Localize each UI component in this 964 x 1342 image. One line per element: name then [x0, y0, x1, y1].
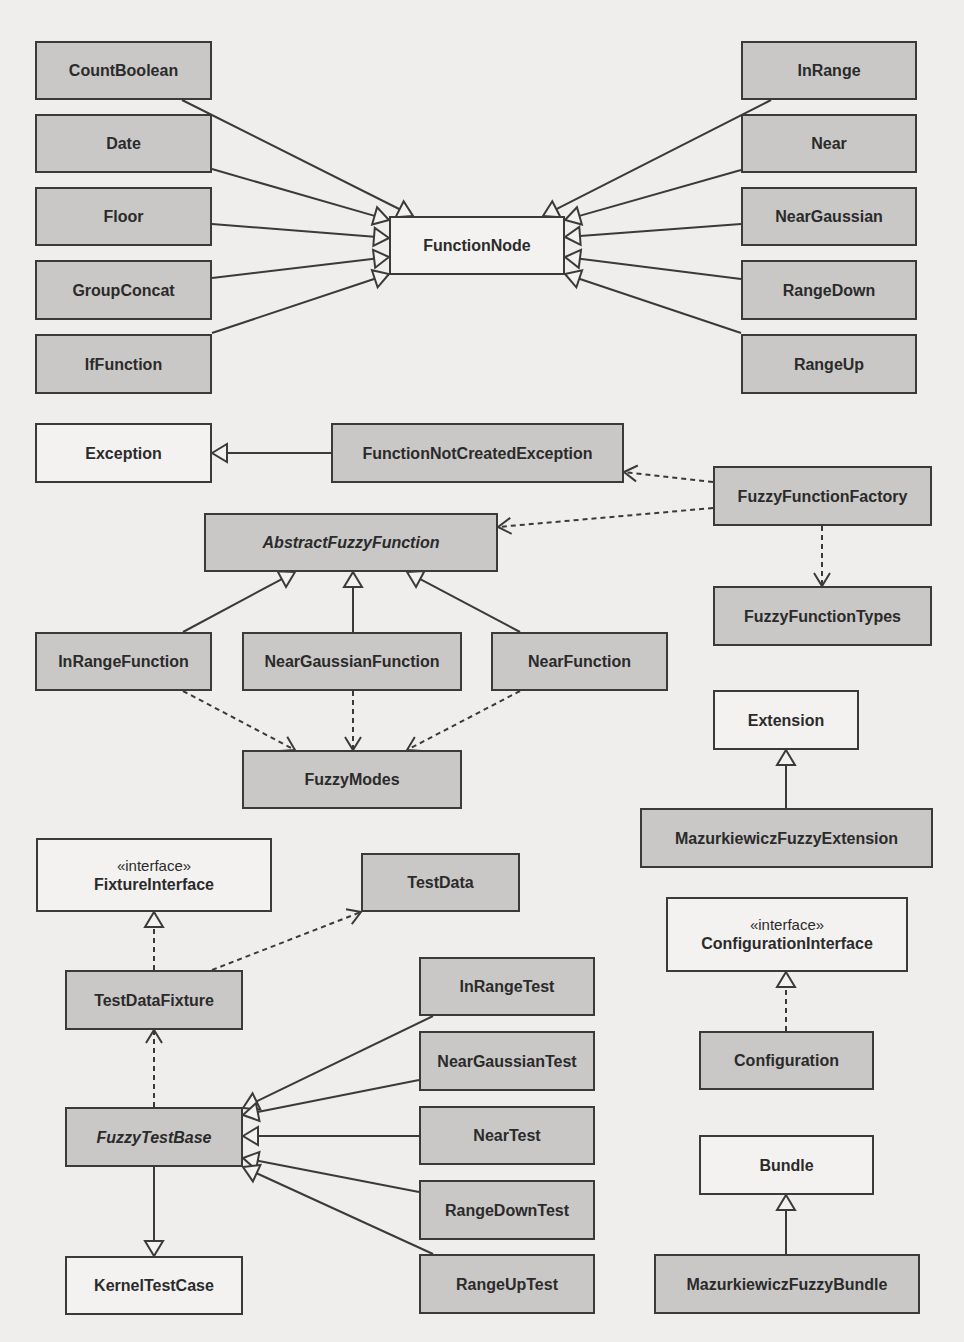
class-in-range[interactable]: InRange — [741, 41, 917, 100]
hollow-triangle-arrow-icon — [212, 444, 227, 462]
class-name: FunctionNotCreatedException — [362, 444, 592, 463]
class-date[interactable]: Date — [35, 114, 212, 173]
class-bundle[interactable]: Bundle — [699, 1135, 874, 1195]
class-function-node[interactable]: FunctionNode — [389, 216, 565, 275]
relation-dependency-line — [212, 912, 361, 970]
class-near-gaussian-test[interactable]: NearGaussianTest — [419, 1031, 595, 1091]
class-name: RangeDownTest — [445, 1201, 569, 1220]
class-name: Extension — [748, 711, 824, 730]
class-name: FunctionNode — [423, 236, 531, 255]
class-configuration-interface[interactable]: «interface» ConfigurationInterface — [666, 897, 908, 972]
relation-generalization-line — [258, 1080, 419, 1112]
class-near-gaussian-function[interactable]: NearGaussianFunction — [242, 632, 462, 691]
class-range-down-test[interactable]: RangeDownTest — [419, 1180, 595, 1240]
class-abstract-fuzzy-function[interactable]: AbstractFuzzyFunction — [204, 513, 498, 572]
class-name: FuzzyTestBase — [97, 1128, 212, 1147]
hollow-triangle-arrow-icon — [373, 228, 389, 246]
open-arrow-icon — [346, 909, 361, 924]
open-arrow-icon — [498, 518, 512, 534]
hollow-triangle-arrow-icon — [396, 201, 413, 217]
class-range-down[interactable]: RangeDown — [741, 260, 917, 320]
class-name: TestDataFixture — [94, 991, 214, 1010]
relation-generalization-line — [556, 100, 771, 209]
class-name: ConfigurationInterface — [701, 934, 873, 953]
hollow-triangle-arrow-icon — [145, 1241, 163, 1256]
class-name: RangeUp — [794, 355, 864, 374]
hollow-triangle-arrow-icon — [243, 1103, 259, 1121]
relation-generalization-line — [580, 259, 741, 279]
class-name: Near — [811, 134, 847, 153]
hollow-triangle-arrow-icon — [243, 1093, 260, 1109]
class-in-range-function[interactable]: InRangeFunction — [35, 632, 212, 691]
class-exception[interactable]: Exception — [35, 423, 212, 483]
class-near[interactable]: Near — [741, 114, 917, 173]
class-fixture-interface[interactable]: «interface» FixtureInterface — [36, 838, 272, 912]
class-group-concat[interactable]: GroupConcat — [35, 260, 212, 320]
relation-generalization-line — [212, 169, 375, 216]
class-name: RangeDown — [783, 281, 875, 300]
class-in-range-test[interactable]: InRangeTest — [419, 957, 595, 1016]
class-mazurkiewicz-fuzzy-extension[interactable]: MazurkiewiczFuzzyExtension — [640, 808, 933, 868]
open-arrow-icon — [146, 1030, 162, 1043]
relation-generalization-line — [580, 224, 741, 236]
class-mazurkiewicz-fuzzy-bundle[interactable]: MazurkiewiczFuzzyBundle — [654, 1254, 920, 1314]
hollow-triangle-arrow-icon — [777, 1195, 795, 1210]
class-name: Exception — [85, 444, 161, 463]
class-name: NearGaussianTest — [437, 1052, 576, 1071]
relation-generalization-line — [579, 279, 741, 333]
hollow-triangle-arrow-icon — [565, 270, 582, 287]
class-stereotype: «interface» — [750, 916, 824, 934]
hollow-triangle-arrow-icon — [565, 227, 581, 245]
class-floor[interactable]: Floor — [35, 187, 212, 246]
class-if-function[interactable]: IfFunction — [35, 334, 212, 394]
class-kernel-test-case[interactable]: KernelTestCase — [65, 1256, 243, 1315]
class-name: NearGaussian — [775, 207, 883, 226]
relation-dependency-line — [624, 472, 713, 482]
class-name: IfFunction — [85, 355, 162, 374]
hollow-triangle-arrow-icon — [145, 912, 163, 927]
class-name: CountBoolean — [69, 61, 178, 80]
class-name: MazurkiewiczFuzzyExtension — [675, 829, 898, 848]
class-name: TestData — [407, 873, 473, 892]
class-name: Date — [106, 134, 141, 153]
relation-generalization-line — [257, 1173, 433, 1254]
hollow-triangle-arrow-icon — [243, 1152, 259, 1170]
class-near-gaussian[interactable]: NearGaussian — [741, 187, 917, 246]
relation-dependency-line — [183, 691, 295, 750]
class-fuzzy-function-types[interactable]: FuzzyFunctionTypes — [713, 586, 932, 646]
hollow-triangle-arrow-icon — [243, 1127, 258, 1145]
class-range-up-test[interactable]: RangeUpTest — [419, 1254, 595, 1314]
class-range-up[interactable]: RangeUp — [741, 334, 917, 394]
class-fuzzy-modes[interactable]: FuzzyModes — [242, 750, 462, 809]
class-near-function[interactable]: NearFunction — [491, 632, 668, 691]
open-arrow-icon — [814, 573, 830, 586]
class-near-test[interactable]: NearTest — [419, 1106, 595, 1165]
class-test-data-fixture[interactable]: TestDataFixture — [65, 970, 243, 1030]
class-name: FuzzyFunctionTypes — [744, 607, 901, 626]
class-count-boolean[interactable]: CountBoolean — [35, 41, 212, 100]
class-fuzzy-function-factory[interactable]: FuzzyFunctionFactory — [713, 466, 932, 526]
class-name: RangeUpTest — [456, 1275, 558, 1294]
hollow-triangle-arrow-icon — [373, 250, 389, 268]
hollow-triangle-arrow-icon — [565, 250, 581, 268]
class-function-not-created-exception[interactable]: FunctionNotCreatedException — [331, 423, 624, 483]
class-name: NearGaussianFunction — [264, 652, 439, 671]
class-name: InRangeFunction — [58, 652, 189, 671]
class-configuration[interactable]: Configuration — [699, 1031, 874, 1090]
hollow-triangle-arrow-icon — [372, 207, 389, 224]
relation-generalization-line — [212, 224, 374, 237]
class-extension[interactable]: Extension — [713, 690, 859, 750]
class-fuzzy-test-base[interactable]: FuzzyTestBase — [65, 1107, 243, 1167]
hollow-triangle-arrow-icon — [543, 201, 560, 217]
class-name: NearTest — [473, 1126, 540, 1145]
relation-generalization-line — [212, 259, 374, 278]
class-test-data[interactable]: TestData — [361, 853, 520, 912]
class-name: FixtureInterface — [94, 875, 214, 894]
relation-generalization-line — [258, 1161, 419, 1192]
class-stereotype: «interface» — [117, 857, 191, 875]
hollow-triangle-arrow-icon — [565, 207, 582, 224]
hollow-triangle-arrow-icon — [777, 750, 795, 765]
class-name: InRangeTest — [460, 977, 555, 996]
class-name: InRange — [797, 61, 860, 80]
hollow-triangle-arrow-icon — [372, 270, 389, 287]
